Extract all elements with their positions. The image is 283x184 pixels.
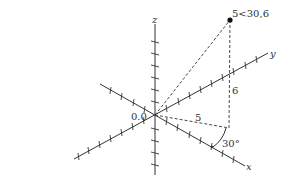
origin-to-point-line: [155, 20, 230, 115]
point-label: 5<30,6: [232, 8, 269, 19]
x-axis-label: x: [246, 161, 252, 172]
construction-lines: [155, 20, 230, 128]
radius-label: 5: [195, 112, 201, 123]
axes: [74, 24, 268, 175]
diagram-canvas: 5<30,6 z y x 0.0 6 5 30°: [0, 0, 283, 184]
y-axis-label: y: [269, 48, 276, 59]
origin-label: 0.0: [131, 111, 147, 122]
z-axis-label: z: [151, 14, 158, 25]
arc-marker: [211, 146, 213, 148]
angle-label: 30°: [222, 138, 240, 149]
height-label: 6: [232, 85, 238, 96]
